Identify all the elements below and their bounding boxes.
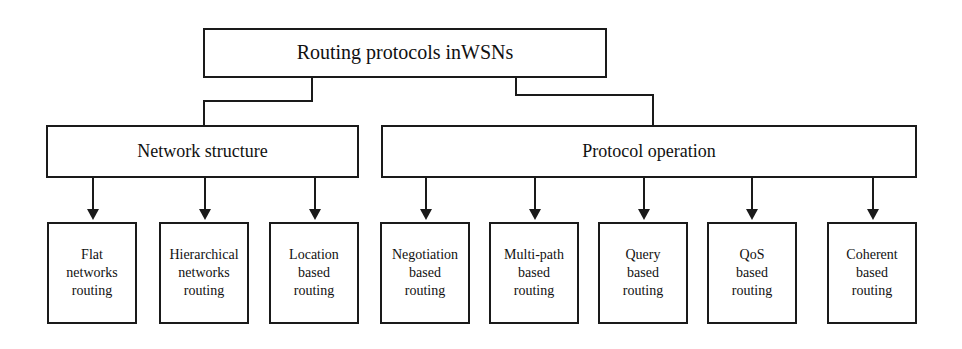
node-flat-networks-routing: Flat networks routing [47,222,137,324]
arrow-shaft-flat-networks-routing [92,178,94,211]
node-qos-based-routing: QoS based routing [707,222,797,324]
leaf-line-2: based [409,265,441,280]
leaf-line-1: Negotiation [392,247,458,262]
arrow-shaft-negotiation-based-routing [425,178,427,211]
leaf-line-2: based [298,265,330,280]
leaf-line-1: QoS [740,247,765,262]
leaf-line-1: Coherent [846,247,897,262]
arrow-head-negotiation-based-routing [420,209,432,220]
connector-root-right-horizontal [515,94,654,96]
arrow-head-qos-based-routing [746,209,758,220]
leaf-line-2: networks [178,265,229,280]
arrow-shaft-coherent-based-routing [872,178,874,211]
arrow-shaft-location-based-routing [314,178,316,211]
arrow-head-multi-path-based-routing [529,209,541,220]
leaf-line-3: routing [72,283,112,298]
leaf-line-1: Multi-path [504,247,564,262]
node-protocol-operation: Protocol operation [381,125,917,178]
node-label-protocol-operation: Protocol operation [579,140,718,163]
leaf-line-1: Query [625,247,660,262]
leaf-line-2: based [627,265,659,280]
leaf-line-2: networks [66,265,117,280]
node-label-location-based-routing: Location based routing [286,246,342,300]
node-label-query-based-routing: Query based routing [620,246,666,300]
leaf-line-3: routing [294,283,334,298]
node-negotiation-based-routing: Negotiation based routing [380,222,470,324]
arrow-head-flat-networks-routing [87,209,99,220]
arrow-shaft-query-based-routing [643,178,645,211]
arrow-head-hierarchical-networks-routing [199,209,211,220]
leaf-line-3: routing [514,283,554,298]
node-multi-path-based-routing: Multi-path based routing [489,222,579,324]
connector-root-left-drop [311,77,313,102]
leaf-line-1: Hierarchical [169,247,238,262]
node-label-negotiation-based-routing: Negotiation based routing [389,246,461,300]
leaf-line-2: based [856,265,888,280]
node-routing-protocols-in-wsns: Routing protocols inWSNs [203,28,607,78]
connector-root-left-horizontal [203,100,313,102]
diagram-canvas: Routing protocols inWSNs Network structu… [0,0,962,349]
node-label-qos-based-routing: QoS based routing [729,246,775,300]
node-query-based-routing: Query based routing [598,222,688,324]
leaf-line-3: routing [732,283,772,298]
leaf-line-1: Flat [81,247,103,262]
node-label-root: Routing protocols inWSNs [294,40,517,66]
leaf-line-2: based [736,265,768,280]
node-label-coherent-based-routing: Coherent based routing [843,246,900,300]
node-coherent-based-routing: Coherent based routing [827,222,917,324]
arrow-shaft-qos-based-routing [751,178,753,211]
arrow-shaft-hierarchical-networks-routing [204,178,206,211]
arrow-head-location-based-routing [309,209,321,220]
arrow-head-coherent-based-routing [867,209,879,220]
node-location-based-routing: Location based routing [269,222,359,324]
leaf-line-2: based [518,265,550,280]
node-label-multi-path-based-routing: Multi-path based routing [501,246,567,300]
node-label-network-structure: Network structure [134,140,270,163]
arrow-shaft-multi-path-based-routing [534,178,536,211]
leaf-line-3: routing [623,283,663,298]
node-hierarchical-networks-routing: Hierarchical networks routing [159,222,249,324]
connector-network-structure-drop [203,100,205,126]
node-network-structure: Network structure [46,125,359,178]
node-label-hierarchical-networks-routing: Hierarchical networks routing [166,246,241,300]
leaf-line-3: routing [405,283,445,298]
leaf-line-3: routing [184,283,224,298]
leaf-line-3: routing [852,283,892,298]
connector-protocol-operation-drop [652,94,654,126]
arrow-head-query-based-routing [638,209,650,220]
leaf-line-1: Location [289,247,339,262]
node-label-flat-networks-routing: Flat networks routing [63,246,120,300]
